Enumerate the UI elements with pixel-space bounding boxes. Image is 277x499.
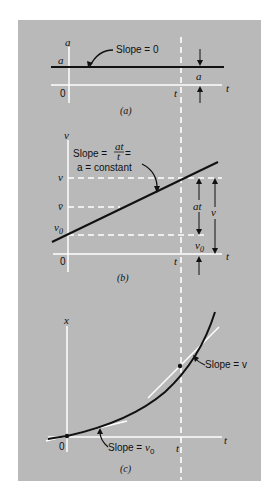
c-annotation-0-pointer [100, 432, 108, 447]
b-slope-annotation-eq: = [125, 148, 131, 159]
c-point-t [178, 364, 182, 368]
b-slope-annotation-line1: Slope = [73, 148, 107, 159]
b-vbar-label: v̄ [58, 200, 63, 212]
arrow-down-icon [196, 229, 202, 235]
arrow-up-icon [196, 178, 202, 184]
b-v-label: v [58, 171, 63, 183]
panel-a: a a 0 t t Slope = 0 a (a) [51, 36, 230, 117]
b-dim-at-label: at [193, 200, 203, 212]
b-v0-label: v0 [54, 221, 63, 236]
b-slope-annotation-line2: a = constant [77, 162, 132, 173]
c-origin-label: 0 [59, 441, 65, 452]
a-t-tick-label: t [174, 87, 178, 99]
a-caption: (a) [120, 105, 132, 117]
panel-b: v v v̄ v0 0 t t Slope = at t = a = const… [52, 129, 230, 284]
b-t-tick-label: t [174, 255, 178, 267]
a-slope-annotation: Slope = 0 [116, 44, 159, 55]
a-t-axis-label: t [226, 82, 230, 94]
b-t-axis-label: t [226, 250, 230, 262]
a-level-label: a [58, 54, 64, 66]
b-dim-v0-label: v0 [195, 239, 204, 254]
c-slope-v-annotation: Slope = v [205, 359, 247, 370]
c-point-0 [65, 434, 69, 438]
a-annotation-pointer [90, 50, 113, 66]
arrow-up-icon [197, 86, 203, 92]
b-dim-v-label: v [211, 206, 216, 218]
a-y-axis-label: a [65, 36, 71, 48]
a-origin-label: 0 [60, 88, 66, 99]
a-dim-label: a [196, 70, 202, 82]
b-y-axis-label: v [64, 129, 69, 141]
arrow-down-icon [197, 60, 203, 66]
c-t-axis-label: t [224, 434, 228, 446]
b-origin-label: 0 [60, 256, 66, 267]
kinematics-diagram: a a 0 t t Slope = 0 a (a) v v v̄ v0 0 t … [0, 0, 277, 499]
c-slope-v0-annotation: Slope = v0 [108, 441, 155, 456]
c-y-axis-label: x [63, 314, 69, 326]
panel-c: x 0 t t Slope = v Slope = v0 (c) [46, 312, 247, 475]
c-t-tick-label: t [176, 442, 180, 454]
arrow-up-icon [212, 178, 218, 184]
c-position-curve [48, 312, 215, 439]
c-caption: (c) [120, 463, 132, 475]
arrow-down-icon [212, 248, 218, 254]
arrow-up-icon [196, 256, 202, 262]
b-caption: (b) [117, 272, 129, 284]
